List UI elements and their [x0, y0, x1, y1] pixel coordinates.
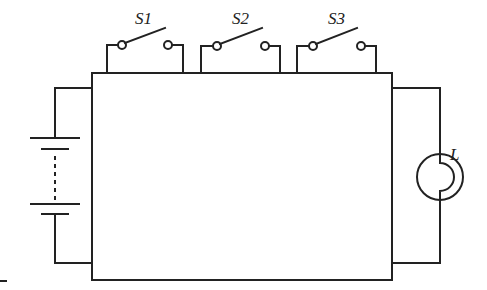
switch-s2-label: S2	[232, 9, 250, 28]
switch-s3-label: S3	[328, 9, 345, 28]
switch-s1: S1	[107, 9, 183, 73]
lamp-label: L	[449, 145, 459, 164]
battery	[31, 88, 92, 263]
switch-s3: S3	[297, 9, 376, 73]
lamp: L	[392, 88, 463, 263]
switch-s1-label: S1	[135, 9, 152, 28]
circuit-diagram: S1 S2 S3 L	[0, 0, 487, 290]
switch-s2: S2	[201, 9, 280, 73]
black-box	[92, 73, 392, 280]
